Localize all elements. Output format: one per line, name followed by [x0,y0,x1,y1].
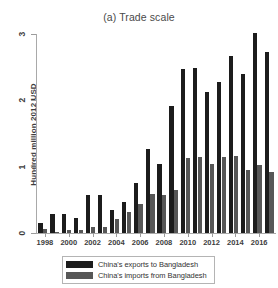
bar-exports-2011 [193,68,197,233]
bar-imports-2009 [174,190,178,233]
bar-exports-2000 [62,214,66,233]
bar-exports-2003 [98,195,102,233]
legend-item-imports: China's imports from Bangladesh [66,270,211,281]
x-tick-2014 [235,233,236,237]
bar-exports-2017 [265,52,269,233]
legend-label-exports: China's exports to Bangladesh [98,260,198,269]
y-tick-label-2: 2 [17,92,27,108]
y-tick-label-0: 0 [17,225,27,241]
x-tick-2000 [69,233,70,237]
x-tick-label-2016: 2016 [242,238,276,247]
bar-exports-1998 [38,223,42,233]
bar-exports-2004 [110,210,114,233]
figure-panel-a: (a) Trade scale Hundred million 2012 USD… [0,0,278,288]
bar-imports-1999 [55,232,59,233]
legend-swatch-exports-icon [66,261,93,268]
legend-item-exports: China's exports to Bangladesh [66,259,211,270]
x-tick-2016 [259,233,260,237]
chart-legend: China's exports to Bangladesh China's im… [62,256,215,284]
bar-imports-2013 [222,157,226,233]
bar-imports-2000 [67,230,71,233]
x-tick-2012 [212,233,213,237]
bar-imports-2010 [186,158,190,233]
x-tick-1998 [45,233,46,237]
bar-imports-2014 [234,156,238,233]
bar-imports-2011 [198,157,202,233]
bar-imports-1998 [43,229,47,233]
bar-imports-2017 [269,172,273,233]
bar-exports-2015 [241,74,245,233]
bar-exports-2006 [134,183,138,233]
bar-exports-2012 [205,92,209,233]
bar-exports-2001 [74,218,78,233]
y-tick-3 [31,34,36,35]
bar-exports-2008 [157,164,161,233]
bar-imports-2005 [127,212,131,233]
legend-label-imports: China's imports from Bangladesh [98,271,207,280]
bar-exports-2016 [253,33,257,233]
bar-exports-2013 [217,82,221,233]
bar-exports-2010 [181,69,185,233]
bar-exports-2005 [122,202,126,233]
bar-imports-2001 [79,230,83,233]
y-tick-label-3: 3 [17,26,27,42]
bar-exports-2007 [146,149,150,233]
bar-imports-2002 [91,227,95,233]
bar-exports-2014 [229,56,233,233]
x-tick-2006 [140,233,141,237]
bar-imports-2006 [138,204,142,233]
bar-exports-2009 [169,106,173,233]
x-tick-2004 [116,233,117,237]
bar-imports-2016 [257,165,261,233]
bar-imports-2003 [103,227,107,233]
bar-imports-2008 [162,195,166,233]
bar-exports-1999 [50,214,54,233]
y-tick-0 [31,233,36,234]
y-tick-1 [31,167,36,168]
y-tick-label-1: 1 [17,159,27,175]
bar-exports-2002 [86,195,90,233]
bar-imports-2004 [115,219,119,233]
y-tick-2 [31,100,36,101]
x-axis-spine [36,233,276,234]
bar-imports-2007 [150,194,154,233]
legend-swatch-imports-icon [66,272,93,279]
x-tick-2010 [188,233,189,237]
bar-imports-2015 [246,170,250,233]
x-tick-2002 [93,233,94,237]
bars-layer [37,34,275,233]
bar-imports-2012 [210,164,214,233]
x-tick-2008 [164,233,165,237]
chart-title: (a) Trade scale [0,11,278,23]
